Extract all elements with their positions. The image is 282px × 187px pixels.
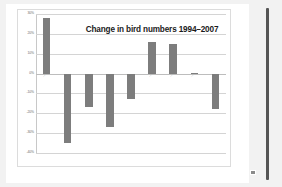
chart-object[interactable]: Change in bird numbers 1994–2007 30%20%1…	[17, 9, 231, 167]
bar[interactable]	[212, 74, 220, 110]
y-axis-tick-label: 0%	[29, 72, 34, 75]
image-placeholder-icon	[250, 170, 256, 175]
gridline	[36, 54, 226, 55]
y-axis-tick-label: -30%	[26, 131, 34, 134]
bar[interactable]	[106, 74, 114, 128]
bar[interactable]	[169, 44, 177, 74]
y-axis-line	[36, 14, 37, 153]
gridline	[36, 14, 226, 15]
gridline	[36, 153, 226, 154]
y-axis-tick-label: -40%	[26, 151, 34, 154]
y-axis-tick-label: 30%	[28, 12, 35, 15]
bar[interactable]	[85, 74, 93, 108]
y-axis-tick-label: 10%	[28, 52, 35, 55]
bar[interactable]	[148, 42, 156, 74]
x-axis-category-label: …	[85, 73, 90, 78]
gridline	[36, 34, 226, 35]
bar[interactable]	[64, 74, 72, 144]
bar[interactable]	[43, 18, 51, 74]
y-axis-tick-label: -10%	[26, 92, 34, 95]
y-axis-tick-label: -20%	[26, 112, 34, 115]
plot-area: 30%20%10%0%-10%-20%-30%-40%………………………	[36, 14, 226, 153]
page-surface: Change in bird numbers 1994–2007 30%20%1…	[0, 0, 282, 187]
y-axis-tick-label: 20%	[28, 32, 35, 35]
scrollbar-strip[interactable]	[266, 8, 269, 180]
